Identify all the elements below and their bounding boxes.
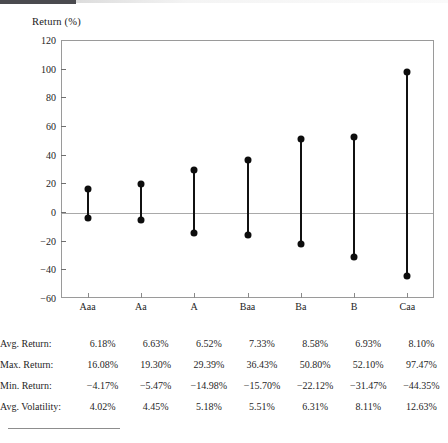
table-cell: 16.08% xyxy=(76,354,129,375)
y-axis-tick: 0 xyxy=(51,207,56,218)
table-cell: −44.35% xyxy=(395,375,448,396)
x-axis-category-label: Aaa xyxy=(80,301,96,312)
x-axis-category-label: Caa xyxy=(400,301,416,312)
y-axis-tick: 120 xyxy=(41,35,56,46)
table-cell: 8.11% xyxy=(342,396,395,417)
table-cell: −15.70% xyxy=(235,375,288,396)
table-cell: 5.18% xyxy=(182,396,235,417)
y-axis-tick: 80 xyxy=(46,92,56,103)
max-return-marker xyxy=(404,69,411,76)
min-return-marker xyxy=(244,231,251,238)
x-axis-category-label: Baa xyxy=(240,301,256,312)
table-bottom-rule xyxy=(8,428,120,429)
table-cell: −5.47% xyxy=(129,375,182,396)
table-cell: 8.58% xyxy=(289,333,342,354)
table-cell: 4.45% xyxy=(129,396,182,417)
x-axis-tick-mark xyxy=(88,293,89,298)
x-axis-tick-mark xyxy=(141,293,142,298)
max-return-marker xyxy=(137,181,144,188)
y-axis-tick: 100 xyxy=(41,63,56,74)
table-cell: 6.31% xyxy=(289,396,342,417)
table-cell: 6.52% xyxy=(182,333,235,354)
table-cell: 7.33% xyxy=(235,333,288,354)
x-axis-tick-mark xyxy=(354,293,355,298)
y-axis-tick: 60 xyxy=(46,121,56,132)
max-return-marker xyxy=(244,156,251,163)
table-cell: 6.63% xyxy=(129,333,182,354)
x-axis-tick-mark xyxy=(301,293,302,298)
y-axis-tick: 20 xyxy=(46,178,56,189)
table-cell: 6.18% xyxy=(76,333,129,354)
table-cell: 19.30% xyxy=(129,354,182,375)
x-axis-category-label: Aa xyxy=(135,301,147,312)
min-return-marker xyxy=(137,216,144,223)
table-row: Avg. Return:6.18%6.63%6.52%7.33%8.58%6.9… xyxy=(0,333,448,354)
table-cell: −14.98% xyxy=(182,375,235,396)
min-return-marker xyxy=(191,230,198,237)
max-return-marker xyxy=(191,166,198,173)
y-axis-tick-mark xyxy=(61,69,66,70)
y-axis-tick: −40 xyxy=(40,264,56,275)
x-axis-category-label: A xyxy=(191,301,198,312)
y-axis-tick-mark xyxy=(61,269,66,270)
x-axis-tick-mark xyxy=(248,293,249,298)
table-row: Max. Return:16.08%19.30%29.39%36.43%50.8… xyxy=(0,354,448,375)
max-return-marker xyxy=(297,136,304,143)
y-axis-tick-mark xyxy=(61,155,66,156)
range-bar xyxy=(193,170,195,234)
table-cell: 52.10% xyxy=(342,354,395,375)
x-axis-tick-mark xyxy=(194,293,195,298)
y-axis-tick-mark xyxy=(61,183,66,184)
table-row: Min. Return:−4.17%−5.47%−14.98%−15.70%−2… xyxy=(0,375,448,396)
y-axis-tick-mark xyxy=(61,97,66,98)
range-bar xyxy=(406,72,408,275)
table-cell: 50.80% xyxy=(289,354,342,375)
table-cell: −31.47% xyxy=(342,375,395,396)
table-cell: 5.51% xyxy=(235,396,288,417)
stats-table-element: Avg. Return:6.18%6.63%6.52%7.33%8.58%6.9… xyxy=(0,333,448,417)
range-bar xyxy=(247,160,249,235)
range-bar xyxy=(353,137,355,257)
table-row-label: Max. Return: xyxy=(0,354,76,375)
table-row: Avg. Volatility:4.02%4.45%5.18%5.51%6.31… xyxy=(0,396,448,417)
table-cell: 6.93% xyxy=(342,333,395,354)
table-row-label: Min. Return: xyxy=(0,375,76,396)
max-return-marker xyxy=(84,185,91,192)
x-axis-category-label: B xyxy=(351,301,358,312)
min-return-marker xyxy=(297,240,304,247)
table-cell: 8.10% xyxy=(395,333,448,354)
y-axis-tick-labels: 120100806040200−20−40−60 xyxy=(0,40,56,298)
table-cell: 97.47% xyxy=(395,354,448,375)
table-cell: 12.63% xyxy=(395,396,448,417)
range-chart: Return (%) 120100806040200−20−40−60 AaaA… xyxy=(0,0,448,330)
min-return-marker xyxy=(351,254,358,261)
y-axis-tick: 40 xyxy=(46,149,56,160)
range-bar xyxy=(140,184,142,220)
y-axis-tick-mark xyxy=(61,241,66,242)
table-cell: 29.39% xyxy=(182,354,235,375)
table-row-label: Avg. Return: xyxy=(0,333,76,354)
y-axis-tick: −20 xyxy=(40,235,56,246)
max-return-marker xyxy=(351,134,358,141)
table-cell: −4.17% xyxy=(76,375,129,396)
table-cell: 4.02% xyxy=(76,396,129,417)
table-row-label: Avg. Volatility: xyxy=(0,396,76,417)
x-axis-tick-mark xyxy=(407,293,408,298)
y-axis-tick: −60 xyxy=(40,293,56,304)
y-axis-label: Return (%) xyxy=(32,16,81,27)
table-cell: −22.12% xyxy=(289,375,342,396)
y-axis-tick-mark xyxy=(61,126,66,127)
y-axis-tick-mark xyxy=(61,212,66,213)
x-axis-category-label: Ba xyxy=(295,301,306,312)
min-return-marker xyxy=(404,272,411,279)
range-bar xyxy=(300,139,302,244)
min-return-marker xyxy=(84,214,91,221)
statistics-table: Avg. Return:6.18%6.63%6.52%7.33%8.58%6.9… xyxy=(0,333,448,417)
table-cell: 36.43% xyxy=(235,354,288,375)
